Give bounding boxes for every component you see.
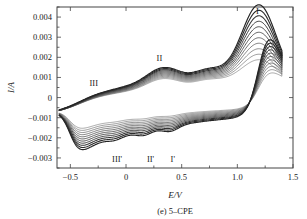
x-tick-label: 1.0 [232, 172, 243, 182]
x-axis-label: E/V [167, 190, 183, 200]
peak-label: II [157, 53, 163, 63]
y-tick-label: 0 [48, 93, 52, 103]
peak-label: I' [171, 154, 176, 164]
x-tick-label: 0.5 [176, 172, 187, 182]
x-tick-label: −0.5 [63, 172, 78, 182]
peak-label: III' [112, 154, 122, 164]
peak-label: III [89, 78, 98, 88]
y-tick-label: −0.003 [28, 153, 52, 163]
x-tick-label: 0 [124, 172, 128, 182]
y-tick-label: 0.002 [33, 52, 52, 62]
y-tick-label: 0.003 [33, 32, 52, 42]
plot-area: −0.500.51.01.50.0040.0030.0020.0010−0.00… [6, 5, 298, 216]
y-axis-label: I/A [6, 82, 16, 94]
y-tick-label: 0.004 [33, 12, 53, 22]
cv-curve [59, 43, 282, 134]
y-tick-label: −0.001 [28, 113, 52, 123]
cyclic-voltammogram-figure: −0.500.51.01.50.0040.0030.0020.0010−0.00… [0, 0, 307, 219]
x-tick-label: 1.5 [288, 172, 299, 182]
peak-label: I [256, 6, 259, 16]
peak-label: II' [147, 154, 155, 164]
cv-curve [59, 49, 282, 133]
y-tick-label: −0.002 [28, 133, 52, 143]
y-tick-label: 0.001 [33, 72, 52, 82]
figure-caption: (e) 5–CPE [157, 206, 193, 216]
